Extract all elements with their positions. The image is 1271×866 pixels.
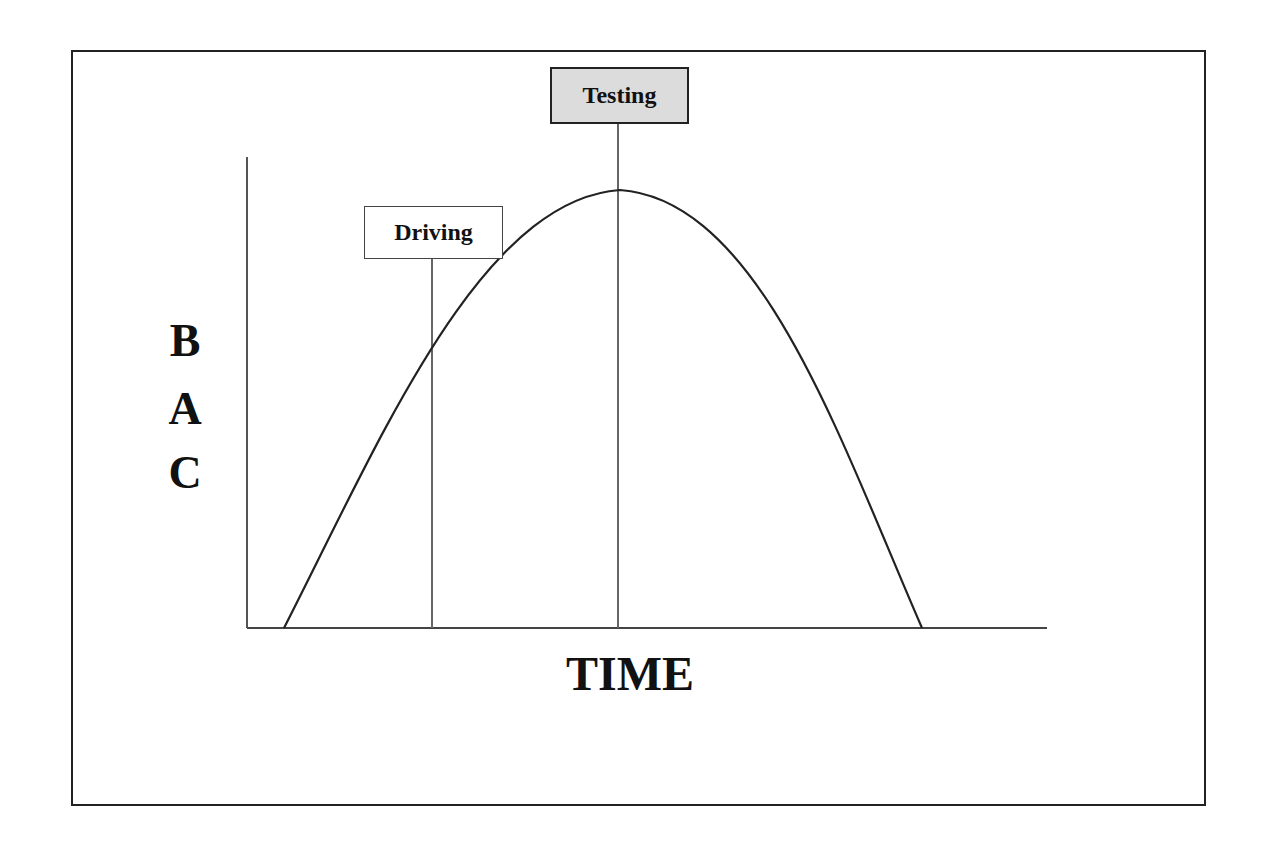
x-axis-label: TIME [520, 650, 740, 698]
y-axis-label-c: C [160, 450, 210, 496]
y-axis-label-b: B [160, 318, 210, 364]
y-axis-label-a: A [160, 386, 210, 432]
testing-label: Testing [550, 67, 689, 124]
driving-label: Driving [364, 206, 503, 259]
